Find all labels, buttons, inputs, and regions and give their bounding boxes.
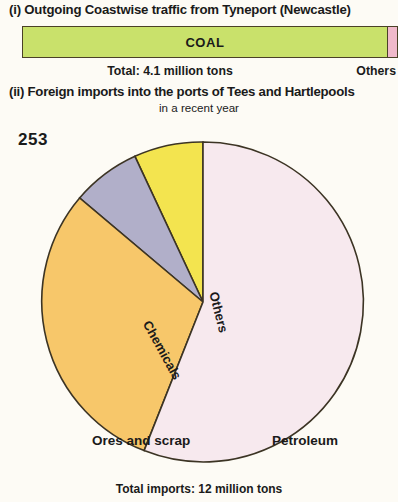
coastwise-traffic-bar: COAL [22,26,398,58]
pie-label-petroleum: Petroleum [272,433,338,448]
section-ii-total-caption: Total imports: 12 million tons [0,482,398,496]
figure-page: (i) Outgoing Coastwise traffic from Tyne… [0,0,398,502]
foreign-imports-pie-chart: Petroleum Ores and scrap Chemicals Other… [40,138,368,468]
bar-segment-others [388,27,397,57]
pie-label-ores-and-scrap: Ores and scrap [92,433,190,448]
bar-segment-coal: COAL [23,27,388,57]
section-i-title: (i) Outgoing Coastwise traffic from Tyne… [9,2,351,17]
bar-segment-coal-label: COAL [185,35,224,50]
pie-svg [40,138,368,468]
bar-others-callout-label: Others [356,64,396,78]
section-i-total-caption: Total: 4.1 million tons [0,64,340,78]
section-ii-subtitle: in a recent year [0,101,398,114]
section-ii-title: (ii) Foreign imports into the ports of T… [9,84,354,99]
